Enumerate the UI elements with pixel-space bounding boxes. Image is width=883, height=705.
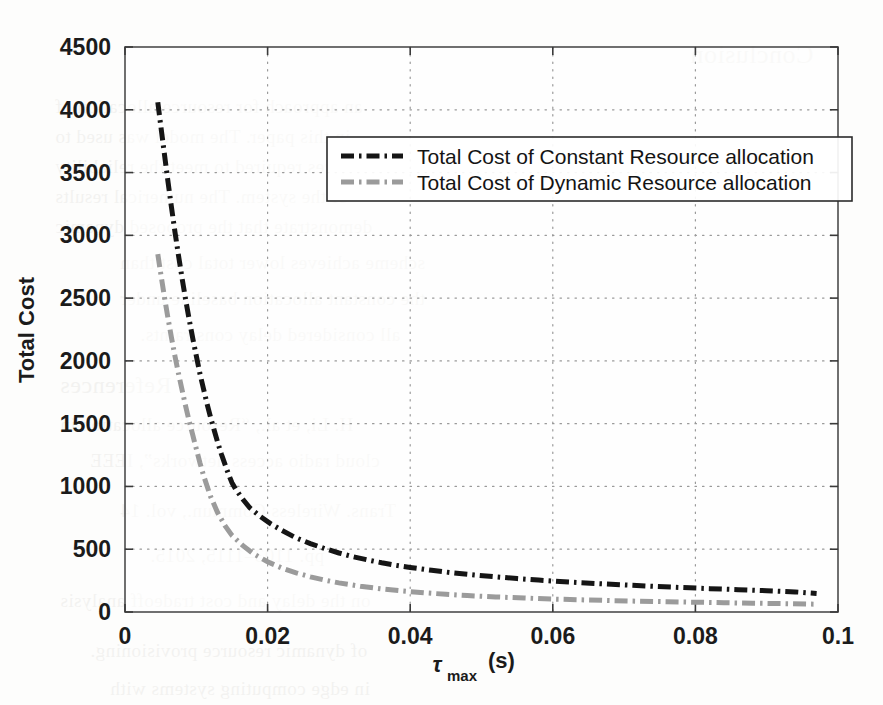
figure-root: Conclusionan approach for resource alloc… xyxy=(0,0,883,705)
y-tick-label: 1500 xyxy=(60,411,111,437)
total-cost-vs-tau-chart: 050010001500200025003000350040004500 00.… xyxy=(0,0,883,705)
x-tick-label: 0.08 xyxy=(673,623,718,649)
y-tick-label: 500 xyxy=(73,536,111,562)
x-tick-label: 0.04 xyxy=(388,623,433,649)
x-axis-title: τ max (s) xyxy=(433,648,515,684)
x-tick-label: 0 xyxy=(119,623,132,649)
y-tick-label: 2000 xyxy=(60,348,111,374)
y-tick-label: 1000 xyxy=(60,473,111,499)
legend-label: Total Cost of Constant Resource allocati… xyxy=(417,145,814,168)
x-axis-title-unit: (s) xyxy=(488,648,515,673)
y-tick-label: 3500 xyxy=(60,160,111,186)
y-tick-label: 0 xyxy=(98,599,111,625)
y-axis-tick-labels: 050010001500200025003000350040004500 xyxy=(60,34,111,625)
y-tick-label: 4000 xyxy=(60,97,111,123)
x-tick-label: 0.06 xyxy=(530,623,575,649)
y-tick-label: 3000 xyxy=(60,222,111,248)
legend-label: Total Cost of Dynamic Resource allocatio… xyxy=(417,171,812,194)
y-axis-title: Total Cost xyxy=(14,276,39,383)
plot-background xyxy=(125,47,838,612)
legend[interactable]: Total Cost of Constant Resource allocati… xyxy=(327,137,852,201)
x-axis-title-subscript: max xyxy=(447,667,478,684)
y-tick-label: 2500 xyxy=(60,285,111,311)
x-tick-label: 0.02 xyxy=(245,623,290,649)
x-tick-label: 0.1 xyxy=(822,623,854,649)
x-axis-tick-labels: 00.020.040.060.080.1 xyxy=(119,623,855,649)
y-tick-label: 4500 xyxy=(60,34,111,60)
x-axis-title-tau: τ xyxy=(433,652,443,677)
